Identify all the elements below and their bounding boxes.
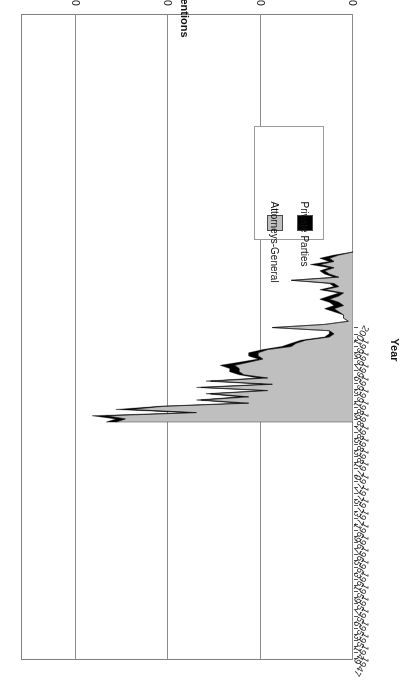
x-tick-mark — [354, 328, 358, 329]
y-tick-label: 60 — [255, 0, 267, 10]
legend-label: Attorneys-General — [270, 202, 281, 283]
legend-label: Private Parties — [300, 202, 311, 267]
area-attorneys-general — [106, 252, 353, 422]
chart-legend: Private PartiesAttorneys-General — [254, 126, 324, 240]
chart-screenshot: 010203040506070 Number of Interventions … — [0, 0, 410, 696]
y-tick-label: 70 — [347, 0, 359, 10]
series-areas — [21, 14, 353, 660]
y-axis-title: Number of Interventions — [179, 0, 191, 84]
x-axis-title: Year — [389, 310, 401, 390]
rotated-figure: 010203040506070 Number of Interventions … — [0, 0, 410, 696]
y-tick-label: 50 — [162, 0, 174, 10]
y-tick-label: 40 — [70, 0, 82, 10]
plot-area — [21, 14, 353, 660]
